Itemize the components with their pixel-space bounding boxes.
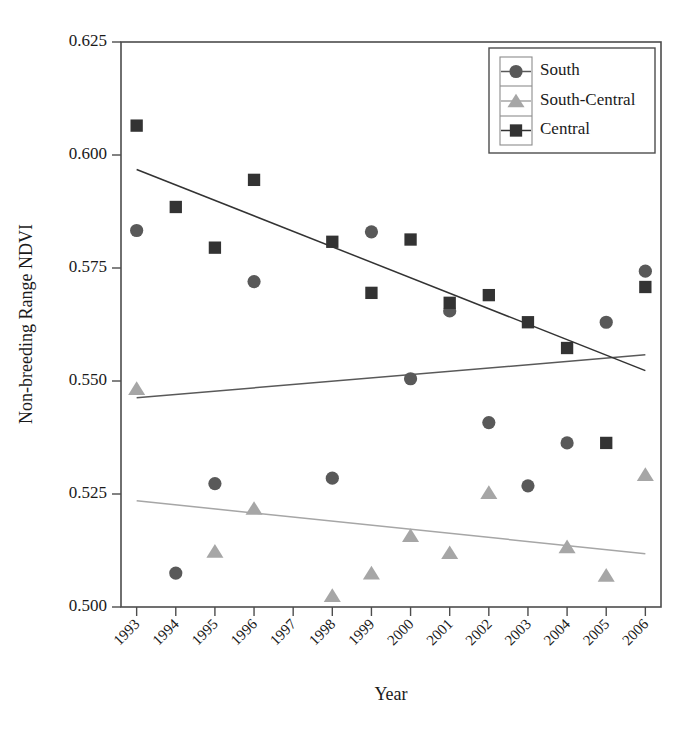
data-point-south: [639, 265, 652, 278]
data-point-south: [365, 225, 378, 238]
x-tick-label: 2002: [462, 616, 495, 649]
trend-lines: [137, 169, 646, 553]
chart-canvas: 0.5000.5250.5500.5750.6000.625 199319941…: [0, 0, 684, 735]
data-point-south: [326, 472, 339, 485]
trend-line-central: [137, 169, 646, 370]
data-point-central: [522, 316, 534, 328]
data-point-south-central: [246, 501, 263, 515]
y-tick-label: 0.550: [69, 370, 107, 389]
x-tick-label: 2004: [541, 615, 574, 648]
y-axis-title: Non-breeding Range NDVI: [16, 224, 36, 424]
data-point-south-central: [324, 588, 341, 602]
data-point-south-central: [206, 544, 223, 558]
y-tick-label: 0.525: [69, 483, 107, 502]
data-point-south-central: [598, 568, 615, 582]
legend-marker-south: [509, 65, 522, 78]
data-point-south-central: [128, 381, 145, 395]
data-point-central: [483, 289, 495, 301]
data-point-central: [600, 437, 612, 449]
data-point-central: [170, 201, 182, 213]
data-point-central: [209, 242, 221, 254]
legend-marker-central: [510, 124, 522, 136]
x-axis-title: Year: [374, 684, 407, 704]
data-point-south: [600, 316, 613, 329]
x-tick-label: 1996: [228, 615, 261, 648]
data-point-central: [404, 233, 416, 245]
legend-label-south: South: [540, 60, 580, 79]
data-point-south: [404, 372, 417, 385]
data-point-central: [326, 236, 338, 248]
data-point-central: [130, 119, 142, 131]
data-point-south: [208, 477, 221, 490]
ndvi-scatter-figure: 0.5000.5250.5500.5750.6000.625 199319941…: [0, 0, 684, 735]
x-tick-label: 1997: [267, 615, 300, 648]
trend-line-south: [137, 355, 646, 398]
y-tick-label: 0.575: [69, 257, 107, 276]
x-tick-label: 1995: [189, 616, 222, 649]
x-tick-label: 2000: [384, 616, 417, 649]
data-point-south-central: [363, 566, 380, 580]
x-tick-label: 1999: [345, 616, 378, 649]
y-tick-label: 0.600: [69, 144, 107, 163]
x-tick-label: 1993: [110, 616, 143, 649]
x-axis-ticks: 1993199419951996199719981999200020012002…: [110, 607, 652, 648]
data-point-south: [482, 416, 495, 429]
legend-label-central: Central: [540, 119, 590, 138]
legend-label-south-central: South-Central: [540, 90, 636, 109]
x-tick-label: 2001: [423, 616, 456, 649]
data-point-central: [365, 287, 377, 299]
data-point-south: [521, 479, 534, 492]
x-tick-label: 2006: [619, 615, 652, 648]
data-point-south-central: [441, 545, 458, 559]
chart-legend: SouthSouth-CentralCentral: [489, 48, 655, 153]
data-point-central: [639, 281, 651, 293]
x-tick-label: 2003: [502, 616, 535, 649]
data-point-south: [247, 275, 260, 288]
y-tick-label: 0.625: [69, 31, 107, 50]
data-point-south: [560, 436, 573, 449]
x-tick-label: 2005: [580, 616, 613, 649]
data-point-south: [169, 567, 182, 580]
x-tick-label: 1994: [149, 615, 182, 648]
data-point-central: [444, 297, 456, 309]
data-point-south-central: [637, 467, 654, 481]
data-point-south-central: [480, 485, 497, 499]
x-tick-label: 1998: [306, 616, 339, 649]
data-point-south: [130, 224, 143, 237]
data-point-central: [248, 174, 260, 186]
y-tick-label: 0.500: [69, 596, 107, 615]
data-point-central: [561, 342, 573, 354]
y-axis-ticks: 0.5000.5250.5500.5750.6000.625: [69, 31, 121, 615]
